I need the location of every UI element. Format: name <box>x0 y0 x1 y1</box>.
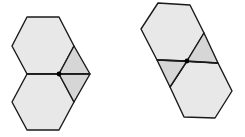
vertex-dot <box>57 72 62 77</box>
diagram-canvas <box>0 0 245 137</box>
figure-left <box>12 17 90 130</box>
vertex-dot <box>185 59 190 64</box>
figure-right <box>141 3 232 118</box>
